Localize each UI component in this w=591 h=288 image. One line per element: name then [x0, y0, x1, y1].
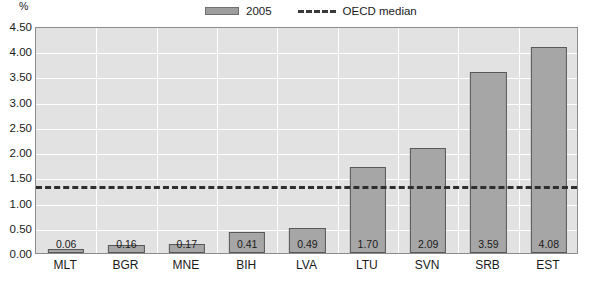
- x-axis-tick-label-lva: LVA: [276, 258, 336, 272]
- y-axis-tick-label: 1.00: [0, 198, 32, 210]
- x-axis-tick-labels: MLTBGRMNEBIHLVALTUSVNSRBEST: [35, 258, 578, 284]
- y-axis-tick-label: 3.50: [0, 71, 32, 83]
- bar-series-2005: 0.060.160.170.410.491.702.093.594.08: [36, 28, 577, 253]
- y-axis-unit-label: %: [19, 0, 28, 12]
- y-axis-tick-label: 0.00: [0, 248, 32, 260]
- legend-bar-swatch-icon: [205, 7, 239, 15]
- bar-value-label: 0.41: [217, 238, 277, 250]
- x-axis-tick-label-bgr: BGR: [95, 258, 155, 272]
- bar-slot: 0.41: [217, 28, 277, 253]
- legend-dashed-line-icon: [298, 10, 336, 13]
- bar-value-label: 0.49: [277, 238, 337, 250]
- x-axis-tick-label-svn: SVN: [397, 258, 457, 272]
- bar-slot: 0.17: [157, 28, 217, 253]
- y-axis-tick-label: 3.00: [0, 97, 32, 109]
- bar-slot: 3.59: [458, 28, 518, 253]
- x-axis-tick-label-mne: MNE: [156, 258, 216, 272]
- x-axis-tick-label-bih: BIH: [216, 258, 276, 272]
- bar-chart: 2005 OECD median % 4.504.003.503.002.502…: [0, 0, 591, 288]
- y-axis-tick-label: 2.50: [0, 122, 32, 134]
- legend-entry-oecd-median: OECD median: [298, 5, 417, 17]
- bar-slot: 0.16: [96, 28, 156, 253]
- bar-slot: 2.09: [398, 28, 458, 253]
- bar-value-label: 4.08: [519, 238, 579, 250]
- y-axis-tick-label: 4.50: [0, 21, 32, 33]
- bar-value-label: 2.09: [398, 238, 458, 250]
- bar-slot: 4.08: [519, 28, 579, 253]
- legend-entry-2005: 2005: [205, 5, 272, 17]
- bar-value-label: 0.06: [36, 238, 96, 250]
- plot-area: 0.060.160.170.410.491.702.093.594.08: [35, 27, 578, 254]
- y-axis-tick-label: 4.00: [0, 46, 32, 58]
- y-axis-tick-labels: 4.504.003.503.002.502.001.501.000.500.00: [0, 27, 32, 254]
- oecd-median-reference-line: [36, 186, 577, 189]
- bar-value-label: 0.16: [96, 238, 156, 250]
- bar-slot: 0.06: [36, 28, 96, 253]
- x-axis-tick-label-est: EST: [518, 258, 578, 272]
- y-axis-tick-label: 2.00: [0, 147, 32, 159]
- bar-value-label: 1.70: [338, 238, 398, 250]
- x-axis-tick-label-mlt: MLT: [35, 258, 95, 272]
- bar-value-label: 3.59: [458, 238, 518, 250]
- y-axis-tick-label: 1.50: [0, 172, 32, 184]
- bar-slot: 1.70: [338, 28, 398, 253]
- bar-srb[interactable]: [470, 72, 506, 253]
- legend-label-2005: 2005: [246, 5, 272, 17]
- y-axis-tick-label: 0.50: [0, 223, 32, 235]
- bar-slot: 0.49: [277, 28, 337, 253]
- chart-legend: 2005 OECD median: [205, 1, 417, 21]
- bar-est[interactable]: [531, 47, 567, 253]
- x-axis-tick-label-srb: SRB: [457, 258, 517, 272]
- legend-label-oecd-median: OECD median: [343, 5, 417, 17]
- x-axis-tick-label-ltu: LTU: [337, 258, 397, 272]
- bar-value-label: 0.17: [157, 238, 217, 250]
